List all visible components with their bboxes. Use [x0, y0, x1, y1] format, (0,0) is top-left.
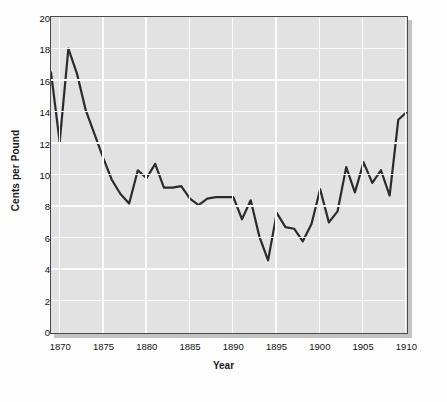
x-tick-label: 1875	[93, 341, 114, 352]
x-axis-title: Year	[0, 360, 447, 371]
x-tick-label: 1900	[309, 341, 330, 352]
x-tick-label: 1905	[353, 341, 374, 352]
x-tick-label: 1880	[136, 341, 157, 352]
x-axis-tick-labels: 187018751880188518901895190019051910	[0, 0, 447, 402]
x-tick-label: 1870	[50, 341, 71, 352]
x-tick-label: 1895	[266, 341, 287, 352]
chart-figure: Cents per Pound 02468101214161820 187018…	[0, 0, 447, 402]
x-tick-label: 1890	[223, 341, 244, 352]
x-tick-label: 1885	[179, 341, 200, 352]
x-tick-label: 1910	[396, 341, 417, 352]
